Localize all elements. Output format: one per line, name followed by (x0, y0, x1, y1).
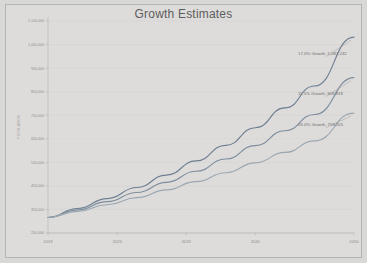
chart-card: Growth Estimates 250,000350,000450,00055… (5, 4, 362, 258)
x-tick-label: 2026 (112, 239, 122, 244)
y-tick-label: 450,000 (31, 184, 44, 188)
x-tick-label: 2040 (251, 239, 261, 244)
y-tick-label: 550,000 (31, 161, 44, 165)
x-axis-ticks: 20192026203320402050 (43, 233, 359, 244)
line-chart-svg: 250,000350,000450,000550,000650,000750,0… (6, 5, 363, 258)
series-end-label: 17.0% Growth, 1,081,242 (298, 51, 347, 56)
y-tick-label: 950,000 (31, 67, 44, 71)
plot-area: 250,000350,000450,000550,000650,000750,0… (6, 5, 361, 257)
chart-frame: Growth Estimates 250,000350,000450,00055… (0, 0, 367, 263)
y-tick-label: 750,000 (31, 114, 44, 118)
series-end-label: 11.5% Growth, 909,818 (298, 91, 343, 96)
x-tick-label: 2033 (182, 239, 192, 244)
y-tick-label: 1,150,000 (28, 19, 44, 23)
series-end-labels: 17.0% Growth, 1,081,24211.5% Growth, 909… (298, 40, 351, 127)
y-tick-label: 850,000 (31, 90, 44, 94)
y-tick-label: 350,000 (31, 208, 44, 212)
y-axis-ticks: 250,000350,000450,000550,000650,000750,0… (28, 19, 48, 235)
y-tick-label: 650,000 (31, 137, 44, 141)
series-lines (48, 37, 354, 217)
x-tick-label: 2050 (349, 239, 359, 244)
series-line (48, 78, 354, 218)
y-tick-label: 1,050,000 (28, 43, 44, 47)
series-end-label: 26.0% Growth, 759,205 (298, 122, 344, 127)
series-line (48, 113, 354, 217)
y-tick-label: 250,000 (31, 231, 44, 235)
y-axis-title: POPULATION (17, 115, 21, 139)
x-tick-label: 2019 (43, 239, 53, 244)
series-line (48, 37, 354, 217)
